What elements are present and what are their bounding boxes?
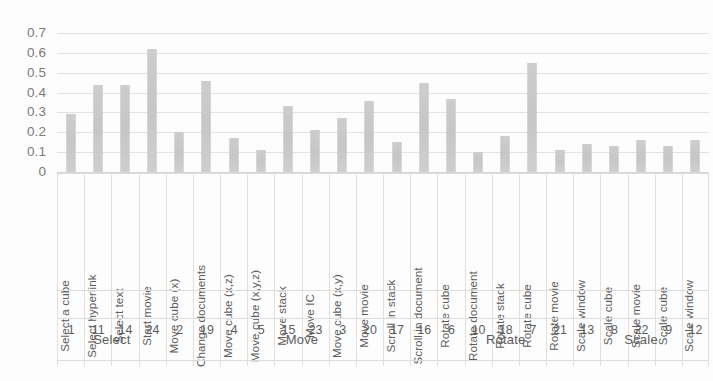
bar-slot	[329, 33, 356, 172]
bar[interactable]	[392, 142, 401, 172]
bar-slot	[519, 33, 546, 172]
table-bottom-border	[57, 360, 709, 361]
bar[interactable]	[664, 146, 673, 172]
bar-slot	[655, 33, 682, 172]
bar[interactable]	[419, 83, 428, 172]
bar[interactable]	[175, 132, 184, 172]
y-axis-tick-label: 0.6	[27, 46, 46, 60]
group-label-scale: Scale	[573, 319, 709, 360]
bar-slot	[682, 33, 709, 172]
y-axis: 0.70.60.50.40.30.20.10	[0, 26, 52, 178]
bar-slot	[84, 33, 111, 172]
bar[interactable]	[609, 146, 618, 172]
group-label-move: Move	[166, 319, 438, 360]
bar-series	[57, 33, 709, 172]
group-label-rotate: Rotate	[437, 319, 573, 360]
bar[interactable]	[202, 81, 211, 172]
bar[interactable]	[446, 99, 455, 172]
bar-slot	[410, 33, 437, 172]
bar-slot	[600, 33, 627, 172]
bar-slot	[546, 33, 573, 172]
y-axis-tick-label: 0.4	[27, 86, 46, 100]
bar[interactable]	[637, 140, 646, 172]
bar[interactable]	[691, 140, 700, 172]
bar-slot	[139, 33, 166, 172]
bar[interactable]	[148, 49, 157, 172]
bar-slot	[437, 33, 464, 172]
bar-slot	[166, 33, 193, 172]
bar-slot	[302, 33, 329, 172]
bar[interactable]	[256, 150, 265, 172]
bar[interactable]	[528, 63, 537, 172]
bar-slot	[628, 33, 655, 172]
bar-slot	[383, 33, 410, 172]
group-label-select: Select	[57, 319, 166, 360]
y-axis-tick-label: 0	[38, 165, 46, 179]
bar[interactable]	[120, 85, 129, 172]
y-axis-tick-label: 0.2	[27, 125, 46, 139]
bar-slot	[111, 33, 138, 172]
bar-slot	[274, 33, 301, 172]
bar-slot	[465, 33, 492, 172]
bar[interactable]	[338, 118, 347, 172]
bar[interactable]	[365, 101, 374, 172]
bar[interactable]	[93, 85, 102, 172]
group-row: SelectMoveRotateScale	[57, 319, 709, 360]
bar-chart: 0.70.60.50.40.30.20.10 Select a cube1Sel…	[0, 0, 713, 381]
bar[interactable]	[555, 150, 564, 172]
plot-area	[57, 33, 709, 172]
y-axis-tick-label: 0.3	[27, 105, 46, 119]
bar[interactable]	[582, 144, 591, 172]
bar[interactable]	[283, 106, 292, 172]
bar-slot	[573, 33, 600, 172]
bar-slot	[492, 33, 519, 172]
bar[interactable]	[66, 114, 75, 172]
bar[interactable]	[501, 136, 510, 172]
bar-slot	[247, 33, 274, 172]
table-row-separator-numbers	[57, 290, 709, 291]
y-axis-tick-label: 0.1	[27, 145, 46, 159]
y-axis-tick-label: 0.7	[27, 26, 46, 40]
bar-slot	[356, 33, 383, 172]
bar[interactable]	[229, 138, 238, 172]
bar[interactable]	[474, 152, 483, 172]
bar-slot	[57, 33, 84, 172]
bar-slot	[220, 33, 247, 172]
bar[interactable]	[311, 130, 320, 172]
y-axis-tick-label: 0.5	[27, 66, 46, 80]
bar-slot	[193, 33, 220, 172]
